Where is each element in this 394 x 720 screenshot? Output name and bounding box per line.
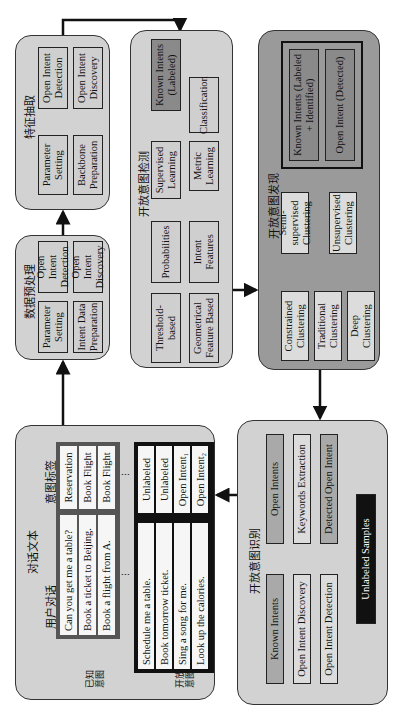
- parameter-setting-box: Parameter Setting: [38, 301, 68, 353]
- table-cell-text: Book a ticket to Beijing.: [79, 515, 96, 635]
- panel-title: 对话文本: [24, 530, 40, 574]
- open-intent-detection-box: Open Intent Detection: [38, 47, 68, 109]
- ellipsis: ⋮: [120, 570, 130, 579]
- known-intents-box: Known Intents: [266, 574, 284, 684]
- open-intent-table: Schedule me a table. Unlabeled Book tomo…: [134, 442, 214, 673]
- keywords-extraction-box: Keywords Extraction: [293, 434, 311, 544]
- table-cell-text: Can you get me a table?: [60, 515, 77, 635]
- semi-supervised-clustering-box: Semi-supervised Clustering: [281, 192, 309, 254]
- traditional-clustering-box: Traditional Clustering: [314, 291, 342, 361]
- threshold-based-box: Threshold-based: [151, 293, 181, 363]
- data-preprocessing-panel: 数据预处理 Parameter Setting Intent Data Prep…: [15, 235, 110, 360]
- backbone-preparation-box: Backbone Preparation: [73, 135, 103, 195]
- known-and-open-intents-group: Known Intents (Labeled + Identified) Ope…: [281, 41, 363, 169]
- open-intent-recognition-panel: 开放意图识别 Known Intents Open Intents Open I…: [237, 420, 388, 705]
- open-intent-discovery-box: Open Intent Discovery: [73, 47, 103, 109]
- supervised-learning-box: Supervised Learning: [151, 141, 181, 199]
- feature-extraction-panel: 特征抽取 Parameter Setting Backbone Preparat…: [15, 35, 110, 210]
- table-cell-label: Unlabeled: [156, 446, 172, 513]
- unlabeled-samples-box: Unlabeled Samples: [356, 494, 376, 624]
- metric-learning-box: Metric Learning: [189, 141, 219, 191]
- parameter-setting-box: Parameter Setting: [38, 135, 68, 195]
- open-intent-discovery-panel: 开放意图发现 Constrained Clustering Traditiona…: [258, 30, 380, 370]
- known-intent-side-label: 已知 意图: [86, 669, 106, 689]
- classification-box: Classification: [189, 77, 219, 133]
- probabilities-box: Probabilities: [151, 221, 181, 283]
- table-cell-text: Look up the calories.: [192, 523, 208, 669]
- table-cell-text: Sing a song for me.: [174, 523, 190, 669]
- panel-title: 特征抽取: [21, 95, 37, 139]
- unsupervised-clustering-box: Unsupervised Clustering: [329, 192, 357, 254]
- table-cell-text: Schedule me a table.: [138, 523, 154, 669]
- ellipsis: ⋮: [120, 470, 130, 479]
- table-cell-label: Book Flight: [79, 446, 96, 509]
- open-intent-detection-panel: 开放意图检测 Threshold-based Geometrical Featu…: [130, 30, 233, 368]
- intent-features-box: Intent Features: [189, 221, 219, 283]
- table-cell-label: Open Intent₂: [192, 446, 208, 513]
- open-intent-side-label: 开放 意图: [176, 669, 196, 689]
- constrained-clustering-box: Constrained Clustering: [281, 291, 309, 361]
- table-cell-label: Unlabeled: [138, 446, 154, 513]
- table-cell-text: Book a flight from A.: [98, 515, 115, 635]
- open-intent-discovery-box: Open Intent Discovery: [293, 574, 311, 684]
- known-intents-labeled-box: Known Intents (Labeled): [151, 39, 181, 111]
- table-cell-text: Book tomorrow ticket.: [156, 523, 172, 669]
- panel-title: 开放意图识别: [246, 528, 262, 594]
- intent-data-preparation-box: Intent Data Preparation: [73, 301, 103, 353]
- table-cell-label: Reservation: [60, 446, 77, 509]
- open-intent-detection-box: Open Intent Detection: [320, 574, 338, 684]
- known-intent-table: Can you get me a table? Reservation Book…: [56, 442, 120, 639]
- dialog-text-panel: 对话文本 用户对话 意图标签 Can you get me a table? R…: [15, 425, 215, 700]
- geometrical-feature-box: Geometrical Feature Based: [189, 293, 219, 363]
- open-intent-detected-box: Open Intent (Detected): [325, 49, 355, 161]
- panel-title: 开放意图检测: [135, 151, 151, 217]
- detected-open-intent-box: Detected Open Intent: [320, 434, 338, 544]
- table-cell-label: Open Intent₁: [174, 446, 190, 513]
- open-intent-detection-box: Open Intent Detection: [38, 241, 68, 293]
- deep-clustering-box: Deep Clustering: [347, 291, 375, 361]
- diagram-canvas: 对话文本 用户对话 意图标签 Can you get me a table? R…: [0, 0, 394, 720]
- open-intents-box: Open Intents: [266, 434, 284, 544]
- table-cell-label: Book Flight: [98, 446, 115, 509]
- open-intent-discovery-box: Open Intent Discovery: [73, 241, 103, 293]
- known-intents-box: Known Intents (Labeled + Identified): [289, 49, 319, 161]
